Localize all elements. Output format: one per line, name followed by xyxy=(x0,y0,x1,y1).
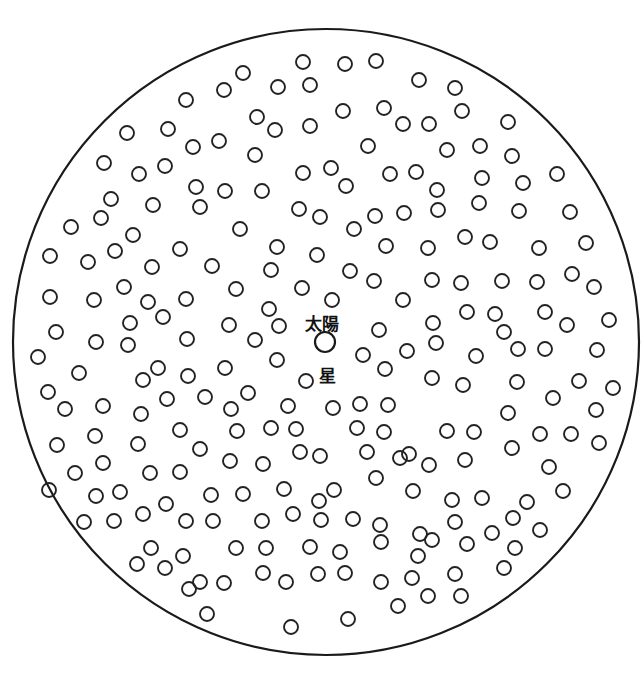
star-marker xyxy=(460,305,474,319)
star-marker xyxy=(440,424,454,438)
star-marker xyxy=(108,244,122,258)
star-marker xyxy=(271,80,285,94)
star-marker xyxy=(422,117,436,131)
star-marker xyxy=(241,386,255,400)
star-marker xyxy=(145,260,159,274)
star-marker xyxy=(256,457,270,471)
star-marker xyxy=(303,119,317,133)
star-marker xyxy=(511,342,525,356)
star-marker xyxy=(327,483,341,497)
star-marker xyxy=(272,319,286,333)
star-marker xyxy=(409,165,423,179)
star-marker xyxy=(406,484,420,498)
star-marker xyxy=(325,293,339,307)
star-marker xyxy=(186,140,200,154)
star-marker xyxy=(475,171,489,185)
star-marker xyxy=(589,403,603,417)
star-marker xyxy=(563,205,577,219)
star-marker xyxy=(448,81,462,95)
star-marker xyxy=(77,515,91,529)
star-marker xyxy=(132,167,146,181)
star-marker xyxy=(377,425,391,439)
star-marker xyxy=(379,239,393,253)
star-marker xyxy=(130,557,144,571)
star-marker xyxy=(454,589,468,603)
star-marker xyxy=(255,514,269,528)
star-marker xyxy=(495,274,509,288)
star-marker xyxy=(508,541,522,555)
star-marker xyxy=(333,545,347,559)
star-marker xyxy=(347,222,361,236)
star-marker xyxy=(369,471,383,485)
star-marker xyxy=(156,310,170,324)
star-marker xyxy=(248,333,262,347)
star-marker xyxy=(454,276,468,290)
star-marker xyxy=(296,55,310,69)
star-marker xyxy=(303,540,317,554)
star-marker xyxy=(97,156,111,170)
star-marker xyxy=(425,273,439,287)
star-marker xyxy=(43,290,57,304)
star-marker xyxy=(488,307,502,321)
star-marker xyxy=(341,612,355,626)
star-marker xyxy=(425,533,439,547)
star-marker xyxy=(88,429,102,443)
star-marker xyxy=(292,202,306,216)
star-marker xyxy=(505,441,519,455)
star-marker xyxy=(572,374,586,388)
star-marker xyxy=(179,292,193,306)
star-marker xyxy=(117,280,131,294)
star-marker xyxy=(560,318,574,332)
star-marker xyxy=(564,427,578,441)
star-marker xyxy=(339,179,353,193)
star-marker xyxy=(206,514,220,528)
star-marker xyxy=(173,465,187,479)
star-marker xyxy=(289,422,303,436)
sun-label: 太陽 xyxy=(305,316,339,333)
star-marker xyxy=(179,93,193,107)
star-marker xyxy=(469,349,483,363)
star-marker xyxy=(510,375,524,389)
star-marker xyxy=(296,166,310,180)
star-marker xyxy=(143,466,157,480)
star-marker xyxy=(198,390,212,404)
star-marker xyxy=(402,447,416,461)
star-marker xyxy=(217,83,231,97)
star-marker xyxy=(430,183,444,197)
star-marker xyxy=(326,401,340,415)
star-marker xyxy=(440,143,454,157)
star-marker xyxy=(501,406,515,420)
star-marker xyxy=(303,78,317,92)
star-marker xyxy=(87,293,101,307)
star-marker xyxy=(592,436,606,450)
star-marker xyxy=(393,451,407,465)
star-marker xyxy=(421,241,435,255)
star-marker xyxy=(361,139,375,153)
star-marker xyxy=(579,236,593,250)
star-marker xyxy=(311,567,325,581)
star-marker xyxy=(475,491,489,505)
star-marker xyxy=(223,454,237,468)
star-marker xyxy=(146,198,160,212)
star-marker xyxy=(313,210,327,224)
star-marker xyxy=(264,263,278,277)
star-marker xyxy=(158,561,172,575)
star-marker xyxy=(96,399,110,413)
star-marker xyxy=(236,66,250,80)
star-marker xyxy=(455,104,469,118)
star-marker xyxy=(299,374,313,388)
star-marker xyxy=(516,176,530,190)
star-marker xyxy=(181,369,195,383)
star-marker xyxy=(176,549,190,563)
star-marker xyxy=(448,567,462,581)
star-marker xyxy=(533,427,547,441)
star-marker xyxy=(248,148,262,162)
star-marker xyxy=(123,316,137,330)
star-marker xyxy=(374,535,388,549)
star-marker xyxy=(497,325,511,339)
star-marker xyxy=(136,373,150,387)
star-marker xyxy=(587,280,601,294)
star-marker xyxy=(107,514,121,528)
star-marker xyxy=(532,241,546,255)
star-marker xyxy=(180,332,194,346)
